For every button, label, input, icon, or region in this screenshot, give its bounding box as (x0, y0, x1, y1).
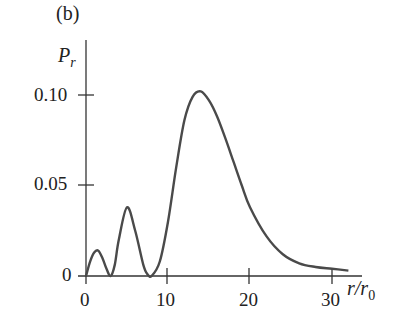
xtick-label-0: 0 (80, 289, 90, 311)
panel-label: (b) (56, 2, 79, 25)
x-axis-label-main: r/r (347, 277, 368, 299)
xtick-label-20: 20 (239, 289, 258, 311)
ytick-label-005: 0.05 (34, 173, 67, 195)
y-axis-label: Pr (58, 44, 76, 71)
probability-curve (86, 91, 348, 277)
y-axis-label-main: P (58, 44, 70, 66)
ytick-label-010: 0.10 (34, 84, 67, 106)
x-axis-label-sub: 0 (368, 288, 375, 303)
xtick-label-30: 30 (321, 289, 340, 311)
xtick-label-10: 10 (156, 289, 175, 311)
ytick-label-0: 0 (62, 264, 72, 286)
y-axis-label-sub: r (70, 55, 75, 70)
x-axis-label: r/r0 (347, 277, 375, 304)
